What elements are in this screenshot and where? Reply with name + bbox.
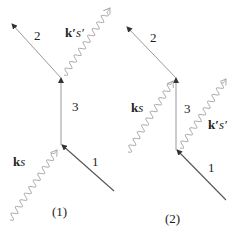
line-2-label: 2	[150, 30, 157, 45]
line-3-label: 3	[184, 101, 191, 116]
photon-ks-label: ks	[131, 100, 143, 115]
diagram-2-caption: (2)	[165, 211, 180, 226]
diagram-1: 2 3 1 ks k′s′ (1)	[10, 8, 114, 220]
photon-ks-label: ks	[13, 154, 25, 169]
line-2-label: 2	[34, 28, 41, 43]
fermion-line-1	[62, 145, 114, 191]
diagram-2: 2 3 1 ks k′s′ (2)	[127, 27, 227, 226]
photon-k-prime-s-prime-label: k′s′	[65, 25, 84, 40]
line-1-label: 1	[208, 160, 215, 175]
line-1-label: 1	[92, 154, 99, 169]
photon-k-prime-s-prime-label: k′s′	[208, 117, 227, 132]
feynman-diagrams: 2 3 1 ks k′s′ (1) 2 3 1 ks k′s′ (2)	[0, 0, 241, 243]
photon-outgoing	[64, 8, 110, 75]
line-3-label: 3	[72, 99, 79, 114]
diagram-1-caption: (1)	[52, 204, 67, 219]
fermion-line-1	[177, 150, 226, 200]
photon-incoming	[128, 81, 173, 152]
